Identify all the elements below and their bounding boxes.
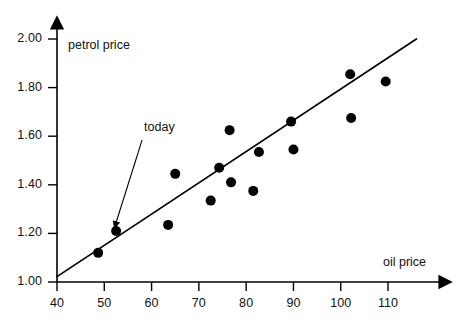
y-tick-label: 1.20: [2, 225, 42, 239]
data-point: [345, 69, 355, 79]
data-point: [254, 147, 264, 157]
x-tick-label: 40: [37, 296, 77, 310]
data-point: [248, 186, 258, 196]
trend-line: [57, 39, 416, 277]
x-tick-label: 80: [226, 296, 266, 310]
data-point: [163, 220, 173, 230]
data-point: [206, 196, 216, 206]
data-point: [288, 145, 298, 155]
annotation-arrows: [116, 140, 142, 223]
x-axis-label: oil price: [383, 255, 426, 269]
data-point: [170, 169, 180, 179]
data-point: [111, 226, 121, 236]
y-tick-label: 1.80: [2, 80, 42, 94]
data-point: [286, 117, 296, 127]
data-point: [381, 77, 391, 87]
regression-line: [57, 39, 416, 277]
x-tick-label: 90: [273, 296, 313, 310]
annotation-label-today: today: [144, 120, 175, 134]
today-arrow: [116, 140, 142, 223]
axes: [57, 28, 440, 282]
data-point: [226, 177, 236, 187]
data-point: [225, 125, 235, 135]
data-points: [93, 69, 391, 258]
data-point: [214, 163, 224, 173]
y-tick-label: 2.00: [2, 31, 42, 45]
scatter-chart: 1.001.201.401.601.802.00 405060708090100…: [0, 0, 457, 332]
y-tick-label: 1.40: [2, 177, 42, 191]
x-tick-label: 60: [132, 296, 172, 310]
x-tick-label: 110: [368, 296, 408, 310]
y-axis-label: petrol price: [68, 38, 130, 52]
x-tick-label: 100: [321, 296, 361, 310]
x-tick-label: 70: [179, 296, 219, 310]
data-point: [346, 113, 356, 123]
y-tick-label: 1.60: [2, 128, 42, 142]
data-point: [93, 248, 103, 258]
y-tick-label: 1.00: [2, 274, 42, 288]
x-tick-label: 50: [84, 296, 124, 310]
